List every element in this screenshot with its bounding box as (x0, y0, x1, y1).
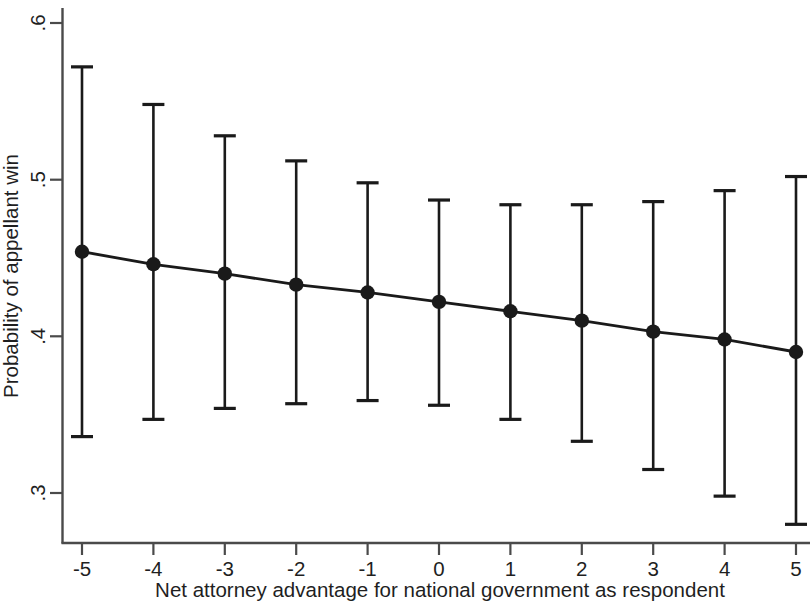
x-tick-label: 4 (719, 557, 730, 580)
x-tick-label: -3 (216, 557, 234, 580)
x-tick-label: 3 (647, 557, 658, 580)
x-tick-label: 2 (576, 557, 587, 580)
data-point-marker (646, 324, 660, 338)
x-tick-label: -5 (73, 557, 91, 580)
x-tick-label: -2 (287, 557, 305, 580)
data-point-marker (503, 304, 517, 318)
data-point-marker (717, 332, 731, 346)
x-tick-label: -4 (144, 557, 162, 580)
data-point-marker (146, 257, 160, 271)
data-point-marker (218, 266, 232, 280)
x-tick-label: 0 (433, 557, 444, 580)
data-point-marker (289, 277, 303, 291)
data-point-marker (575, 313, 589, 327)
y-tick-label: .5 (26, 171, 49, 188)
data-point-marker (789, 345, 803, 359)
data-point-marker (432, 295, 446, 309)
y-axis-title: Probability of appellant win (0, 154, 22, 398)
y-tick-label: .4 (26, 328, 49, 345)
x-tick-label: 1 (505, 557, 516, 580)
y-tick-label: .3 (26, 484, 49, 501)
chart-figure: .6 .5 .4 .3 -5 -4 -3 -2 -1 0 1 2 3 4 5 P… (0, 0, 810, 601)
y-tick-label: .6 (26, 14, 49, 31)
x-tick-label: 5 (790, 557, 801, 580)
data-point-marker (360, 285, 374, 299)
errorbar-line-chart: .6 .5 .4 .3 -5 -4 -3 -2 -1 0 1 2 3 4 5 P… (0, 0, 810, 601)
data-point-marker (75, 245, 89, 259)
x-axis-title: Net attorney advantage for national gove… (155, 578, 725, 601)
x-tick-label: -1 (358, 557, 376, 580)
plot-background (0, 0, 810, 601)
